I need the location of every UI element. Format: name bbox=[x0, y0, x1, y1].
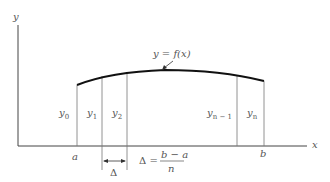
y-axis-label: y bbox=[12, 11, 19, 22]
trapezoid-rule-diagram: y x y = f(x) y0 y1 y2 yn − 1 yn a b Δ Δ … bbox=[0, 0, 330, 182]
curve-f-of-x bbox=[77, 70, 264, 85]
delta-symbol: Δ bbox=[110, 167, 117, 178]
ordinate-label-y2: y2 bbox=[111, 107, 122, 121]
delta-formula-lhs: Δ = bbox=[139, 155, 158, 166]
ordinate-label-y0: y0 bbox=[58, 107, 69, 121]
x-axis-label: x bbox=[312, 139, 318, 150]
ordinate-label-y1: y1 bbox=[86, 107, 97, 121]
ordinate-label-yn-1: yn − 1 bbox=[206, 107, 232, 121]
delta-formula-denominator: n bbox=[168, 163, 174, 174]
delta-arrowhead-right-icon bbox=[121, 159, 126, 163]
delta-arrowhead-left-icon bbox=[103, 159, 108, 163]
endpoint-b-label: b bbox=[260, 148, 266, 159]
endpoint-a-label: a bbox=[72, 151, 78, 162]
delta-formula-numerator: b − a bbox=[161, 149, 188, 160]
curve-label: y = f(x) bbox=[152, 48, 191, 59]
ordinate-label-yn: yn bbox=[246, 107, 258, 121]
